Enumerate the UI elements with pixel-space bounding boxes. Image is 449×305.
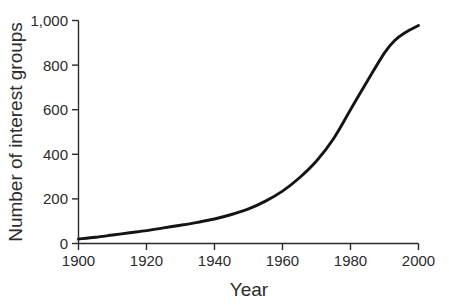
x-tick-marks (79, 244, 419, 251)
y-tick-marks (72, 21, 79, 244)
y-tick-labels: 1,000 800 600 400 200 0 (30, 12, 68, 252)
y-tick-label-1000: 1,000 (30, 12, 68, 29)
x-tick-label-1940: 1940 (198, 252, 231, 269)
x-tick-label-1920: 1920 (130, 252, 163, 269)
y-tick-label-0: 0 (60, 235, 68, 252)
y-tick-label-800: 800 (43, 57, 68, 74)
x-tick-labels: 1900 1920 1940 1960 1980 2000 (62, 252, 435, 269)
y-axis-title: Number of interest groups (5, 22, 26, 242)
y-tick-label-600: 600 (43, 101, 68, 118)
interest-groups-line-series (79, 25, 419, 239)
chart-plot-area: 1,000 800 600 400 200 0 1900 1920 1940 1… (0, 0, 449, 305)
x-axis-title: Year (230, 279, 269, 300)
chart-figure: 1,000 800 600 400 200 0 1900 1920 1940 1… (0, 0, 449, 305)
x-tick-label-1980: 1980 (334, 252, 367, 269)
x-tick-label-1960: 1960 (266, 252, 299, 269)
x-tick-label-2000: 2000 (402, 252, 435, 269)
x-tick-label-1900: 1900 (62, 252, 95, 269)
y-tick-label-400: 400 (43, 146, 68, 163)
y-tick-label-200: 200 (43, 190, 68, 207)
